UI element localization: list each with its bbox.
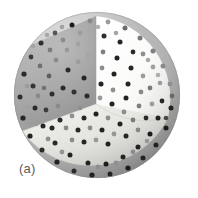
particle-dot xyxy=(88,19,93,24)
particle-dot xyxy=(150,102,155,107)
particle-dot xyxy=(50,92,55,97)
particle-dot xyxy=(121,155,126,160)
particle-dot xyxy=(45,33,50,38)
particle-dot xyxy=(39,41,44,46)
particle-dot xyxy=(66,68,71,73)
particle-dot xyxy=(94,138,99,143)
particle-dot xyxy=(53,141,58,146)
particle-dot xyxy=(61,38,66,43)
particle-dot xyxy=(131,150,136,155)
particle-dot xyxy=(102,34,107,39)
particle-dot xyxy=(170,94,175,99)
particle-dot xyxy=(70,114,75,119)
particle-dot xyxy=(148,86,153,91)
particle-dot xyxy=(31,84,36,89)
particle-dot xyxy=(118,40,123,45)
particle-dot xyxy=(40,148,45,153)
particle-dot xyxy=(112,132,117,137)
particle-dot xyxy=(20,115,25,120)
particle-dot xyxy=(99,82,104,87)
particle-dot xyxy=(164,126,169,131)
particle-dot xyxy=(46,137,51,142)
particle-dot xyxy=(38,64,43,69)
particle-dot xyxy=(86,53,91,58)
particle-dot xyxy=(156,116,161,121)
particle-dot xyxy=(151,65,156,70)
particle-dot xyxy=(85,94,90,99)
particle-dot xyxy=(58,118,63,123)
particle-dot xyxy=(56,104,61,109)
particle-dot xyxy=(108,172,113,177)
particle-dot xyxy=(114,31,119,36)
particle-dot xyxy=(100,128,105,133)
particle-dot xyxy=(106,116,111,121)
particle-dot xyxy=(86,161,91,166)
particle-dot xyxy=(94,112,99,117)
particle-dot xyxy=(61,86,66,91)
particle-dot xyxy=(72,169,77,174)
particle-dot xyxy=(89,172,94,177)
particle-dot xyxy=(82,76,87,81)
particle-dot xyxy=(124,96,129,101)
figure-panel: (a) xyxy=(0,0,198,198)
particle-dot xyxy=(82,140,87,145)
particle-dot xyxy=(106,142,111,147)
particle-dot xyxy=(78,106,83,111)
particle-dot xyxy=(151,49,156,54)
particle-dot xyxy=(36,94,41,99)
particle-dot xyxy=(60,150,65,155)
particle-dot xyxy=(33,106,38,111)
particle-dot xyxy=(76,42,81,47)
particle-dot xyxy=(164,116,169,121)
particle-dot xyxy=(47,74,52,79)
particle-dot xyxy=(122,110,127,115)
particle-dot xyxy=(141,52,146,57)
particle-dot xyxy=(96,165,101,170)
particle-dot xyxy=(118,122,123,127)
particle-dot xyxy=(98,96,103,101)
particle-dot xyxy=(64,126,69,131)
particle-dot xyxy=(131,50,136,55)
panel-label: (a) xyxy=(19,162,36,175)
particle-dot xyxy=(114,161,119,166)
particle-dot xyxy=(115,56,120,61)
particle-dot xyxy=(136,128,141,133)
particle-dot xyxy=(29,55,34,60)
particle-dot xyxy=(100,66,105,71)
particle-dot xyxy=(48,48,53,53)
particle-dot xyxy=(154,143,159,148)
particle-dot xyxy=(18,95,23,100)
particle-dot xyxy=(21,71,26,76)
particle-dot xyxy=(126,82,131,87)
particle-dot xyxy=(76,128,81,133)
particle-dot xyxy=(72,90,77,95)
particle-dot xyxy=(104,162,109,167)
particle-dot xyxy=(141,74,146,79)
particle-dot xyxy=(139,90,144,95)
particle-dot xyxy=(137,104,142,109)
particle-dot xyxy=(50,126,55,131)
particle-dot xyxy=(44,108,49,113)
particle-dot xyxy=(78,31,83,36)
particle-dot xyxy=(144,116,149,121)
particle-dot xyxy=(160,99,165,104)
particle-dot xyxy=(26,105,31,110)
particle-dot xyxy=(54,58,59,63)
particle-dot xyxy=(146,58,151,63)
particle-dot xyxy=(31,44,36,49)
particle-dot xyxy=(158,81,163,86)
particle-dot xyxy=(42,86,47,91)
particle-dot xyxy=(125,165,130,170)
particle-dot xyxy=(138,36,143,41)
particle-dot xyxy=(70,138,75,143)
particle-dot xyxy=(101,50,106,55)
particle-dot xyxy=(168,82,173,87)
particle-dot xyxy=(110,102,115,107)
particle-dot xyxy=(70,23,75,28)
particle-dot xyxy=(156,73,161,78)
particle-dot xyxy=(76,60,81,65)
particle-dot xyxy=(88,126,93,131)
particle-dot xyxy=(129,66,134,71)
particle-dot xyxy=(54,159,59,164)
particle-dot xyxy=(60,25,65,30)
